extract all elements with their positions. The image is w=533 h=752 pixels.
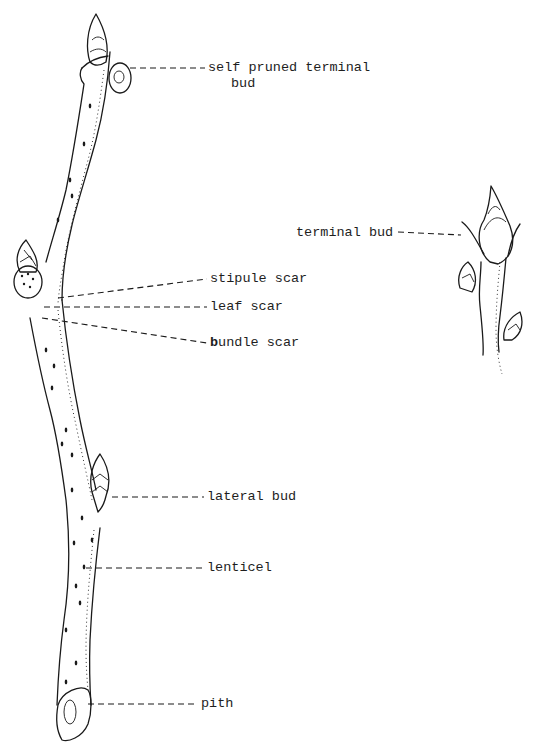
- lenticels: [45, 104, 94, 685]
- label-self-pruned-terminal-bud: self pruned terminal bud: [208, 60, 370, 92]
- pith-shape: [64, 700, 76, 724]
- inset-twig: [459, 186, 522, 374]
- self-pruned-bud-scales: [88, 14, 108, 65]
- leader-lines: [42, 68, 461, 704]
- label-bundle-scar: bundle scar: [210, 335, 299, 351]
- twig-drawing: [0, 0, 533, 752]
- label-lenticel: lenticel: [207, 560, 272, 576]
- leaf-scar-shape: [14, 266, 42, 298]
- label-leaf-scar: leaf scar: [210, 299, 283, 315]
- label-stipule-scar: stipule scar: [210, 271, 307, 287]
- twig-cross-section: [57, 688, 91, 741]
- label-lateral-bud: lateral bud: [207, 489, 296, 505]
- label-bundle-scar-rest: undle scar: [218, 335, 299, 350]
- lateral-bud-shape: [91, 454, 109, 512]
- terminal-bud-shape: [479, 186, 513, 264]
- label-line-1: self pruned terminal: [208, 60, 370, 76]
- label-terminal-bud: terminal bud: [296, 225, 393, 241]
- twig-diagram: self pruned terminal bud stipule scar le…: [0, 0, 533, 752]
- main-twig: [14, 14, 131, 740]
- label-line-2: bud: [208, 76, 370, 92]
- label-bundle-scar-initial: b: [210, 335, 218, 350]
- label-pith: pith: [201, 696, 233, 712]
